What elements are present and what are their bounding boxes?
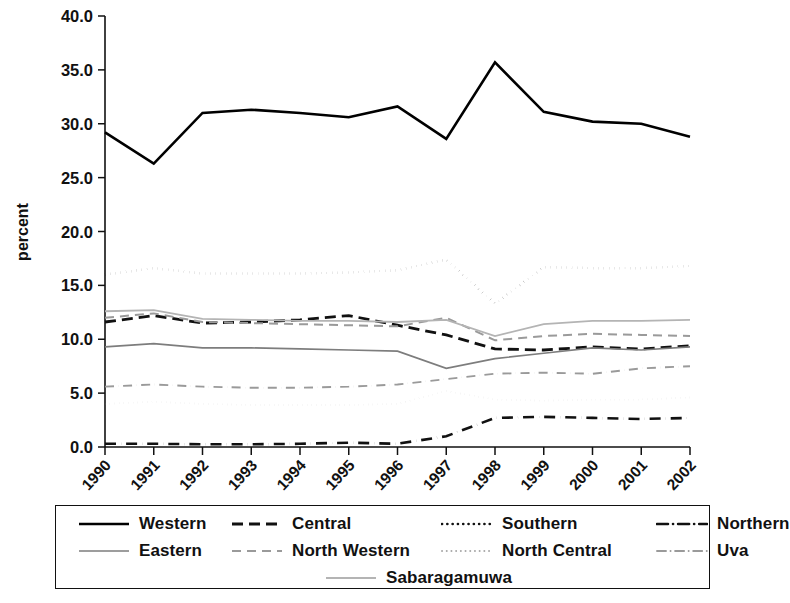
legend-item-northern[interactable]: Northern — [656, 514, 790, 534]
series-line-uva — [105, 366, 690, 388]
x-tick-label: 1995 — [322, 456, 358, 493]
y-axis-title: percent — [14, 202, 31, 260]
legend-row: Sabaragamuwa — [56, 564, 709, 591]
series-line-northern — [105, 417, 690, 444]
x-tick-label: 1996 — [371, 456, 407, 493]
legend-item-sabaragamuwa[interactable]: Sabaragamuwa — [325, 568, 512, 588]
series-line-southern — [105, 260, 690, 304]
legend-label: Western — [139, 514, 206, 534]
y-axis: 0.05.010.015.020.025.030.035.040.0 — [61, 7, 105, 456]
y-tick-label: 35.0 — [61, 61, 93, 79]
y-tick-label: 10.0 — [61, 330, 93, 348]
line-sample-eastern-icon — [78, 544, 130, 558]
x-tick-label: 1998 — [468, 456, 504, 493]
chart-legend: Western Central Southern Northern Easter… — [55, 505, 710, 589]
y-tick-label: 0.0 — [70, 438, 93, 456]
legend-item-north-western[interactable]: North Western — [231, 541, 441, 561]
y-tick-label: 15.0 — [61, 276, 93, 294]
legend-label: North Central — [502, 541, 612, 561]
legend-row: Western Central Southern Northern — [56, 506, 709, 537]
legend-item-southern[interactable]: Southern — [441, 514, 656, 534]
x-tick-label: 1990 — [78, 456, 114, 493]
x-tick-label: 1991 — [127, 456, 163, 493]
legend-item-eastern[interactable]: Eastern — [56, 541, 231, 561]
legend-label: North Western — [292, 541, 410, 561]
line-sample-western-icon — [78, 517, 130, 531]
legend-label: Sabaragamuwa — [386, 568, 512, 588]
line-sample-southern-icon — [441, 517, 493, 531]
line-sample-north-western-icon — [231, 544, 283, 558]
legend-item-western[interactable]: Western — [56, 514, 231, 534]
x-tick-label: 2000 — [566, 456, 602, 493]
x-tick-label: 2001 — [614, 456, 650, 493]
legend-item-central[interactable]: Central — [231, 514, 441, 534]
line-sample-north-central-icon — [441, 544, 493, 558]
legend-label: Eastern — [139, 541, 202, 561]
legend-label: Central — [292, 514, 351, 534]
legend-label: Uva — [717, 541, 749, 561]
series-line-western — [105, 62, 690, 163]
x-tick-label: 1999 — [517, 456, 553, 493]
legend-item-uva[interactable]: Uva — [656, 541, 749, 561]
x-tick-label: 1993 — [224, 456, 260, 493]
line-sample-northern-icon — [656, 517, 708, 531]
series-line-sabaragamuwa — [105, 310, 690, 336]
legend-label: Southern — [502, 514, 577, 534]
line-sample-central-icon — [231, 517, 283, 531]
legend-row: Eastern North Western North Central Uva — [56, 537, 709, 564]
x-tick-label: 2002 — [663, 456, 699, 493]
y-tick-label: 25.0 — [61, 169, 93, 187]
y-tick-label: 40.0 — [61, 7, 93, 25]
series-line-north-central — [105, 391, 690, 405]
legend-item-north-central[interactable]: North Central — [441, 541, 656, 561]
x-axis: 1990199119921993199419951996199719981999… — [78, 447, 699, 493]
y-tick-label: 30.0 — [61, 115, 93, 133]
legend-label: Northern — [717, 514, 790, 534]
y-tick-label: 5.0 — [70, 384, 93, 402]
x-tick-label: 1992 — [176, 456, 212, 493]
x-tick-label: 1997 — [419, 456, 455, 493]
line-sample-uva-icon — [656, 544, 708, 558]
x-tick-label: 1994 — [273, 456, 309, 493]
line-sample-sabaragamuwa-icon — [325, 571, 377, 585]
y-tick-label: 20.0 — [61, 223, 93, 241]
series-lines — [105, 62, 690, 444]
